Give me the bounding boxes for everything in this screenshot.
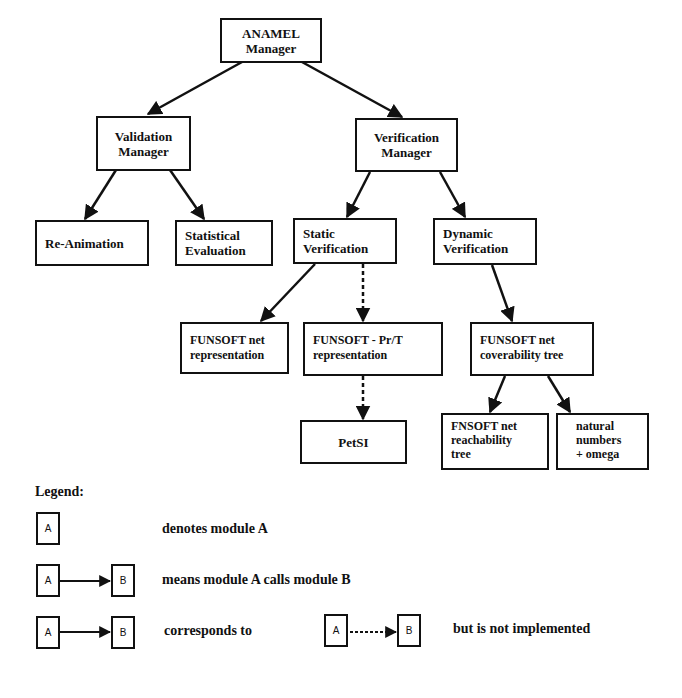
node-label-line: FUNSOFT - Pr/T	[313, 333, 433, 348]
node-label-line: Evaluation	[185, 243, 263, 258]
edge-coverability-to-reachability	[490, 376, 505, 412]
edge-static-to-funsoft-net-representation	[261, 264, 315, 321]
node-statistical-evaluation: Statistical Evaluation	[175, 220, 273, 266]
edge-validation-to-reanimation	[85, 170, 116, 219]
node-label-line: tree	[451, 447, 539, 461]
legend-row3-text-end: but is not implemented	[453, 621, 590, 637]
edge-anamel-to-validation	[148, 62, 242, 114]
legend-title: Legend:	[35, 484, 84, 500]
node-petsi: PetSI	[300, 420, 407, 464]
legend-row1-text: denotes module A	[162, 521, 268, 537]
node-label-line: ANAMEL	[230, 26, 312, 41]
node-label-line: Verification	[365, 130, 448, 145]
edge-anamel-to-verification	[302, 62, 402, 117]
edge-coverability-to-natural-numbers	[548, 376, 570, 412]
node-label-line: Validation	[106, 129, 181, 144]
node-label-line: reachability	[451, 433, 539, 447]
node-label-line: representation	[190, 348, 279, 363]
node-label-line: coverability tree	[480, 348, 584, 363]
node-label-line: FUNSOFT net	[480, 333, 584, 348]
node-funsoft-prt-representation: FUNSOFT - Pr/T representation	[303, 322, 443, 376]
legend-box-a-dashed: A	[324, 614, 348, 647]
legend-box-b-row3: B	[111, 616, 135, 649]
edge-dynamic-to-coverability	[492, 265, 512, 321]
node-label-line: Static	[303, 226, 387, 241]
node-label-line: Statistical	[185, 228, 263, 243]
legend-box-a-row1: A	[36, 512, 60, 545]
node-funsoft-net-representation: FUNSOFT net representation	[180, 322, 289, 374]
node-verification-manager: Verification Manager	[355, 118, 458, 172]
legend-box-b-row2: B	[111, 564, 135, 597]
legend-box-a-row2: A	[36, 564, 60, 597]
node-label-line: Verification	[303, 241, 387, 256]
node-label-line: + omega	[576, 447, 639, 461]
node-re-animation: Re-Animation	[35, 220, 149, 266]
node-label-line: Dynamic	[443, 226, 527, 241]
node-label-line: Manager	[230, 41, 312, 56]
edge-verification-to-static	[347, 172, 370, 217]
node-label-line: FNSOFT net	[451, 419, 539, 433]
node-label-line: numbers	[576, 433, 639, 447]
edge-validation-to-statistical	[170, 170, 204, 219]
legend-box-b-dashed: B	[397, 614, 421, 647]
node-label-line: natural	[576, 419, 639, 433]
node-label-line: FUNSOFT net	[190, 333, 279, 348]
node-label-line: Verification	[443, 241, 527, 256]
node-label-line: PetSI	[338, 435, 368, 450]
node-natural-numbers-omega: natural numbers + omega	[556, 413, 649, 470]
node-anamel-manager: ANAMEL Manager	[220, 18, 322, 63]
legend-row3-text-mid: corresponds to	[164, 623, 252, 639]
node-label-line: Manager	[365, 145, 448, 160]
node-fnsoft-net-reachability-tree: FNSOFT net reachability tree	[441, 413, 549, 470]
node-label-line: Manager	[106, 144, 181, 159]
node-label-line: representation	[313, 348, 433, 363]
legend-box-a-row3: A	[36, 616, 60, 649]
node-static-verification: Static Verification	[293, 218, 397, 264]
diagram-canvas: ANAMEL Manager Validation Manager Verifi…	[0, 0, 682, 698]
node-validation-manager: Validation Manager	[96, 116, 191, 171]
node-label-line: Re-Animation	[45, 236, 124, 251]
edge-verification-to-dynamic	[440, 172, 465, 217]
node-funsoft-net-coverability-tree: FUNSOFT net coverability tree	[470, 322, 594, 376]
node-dynamic-verification: Dynamic Verification	[433, 218, 537, 265]
legend-row2-text: means module A calls module B	[162, 572, 351, 588]
